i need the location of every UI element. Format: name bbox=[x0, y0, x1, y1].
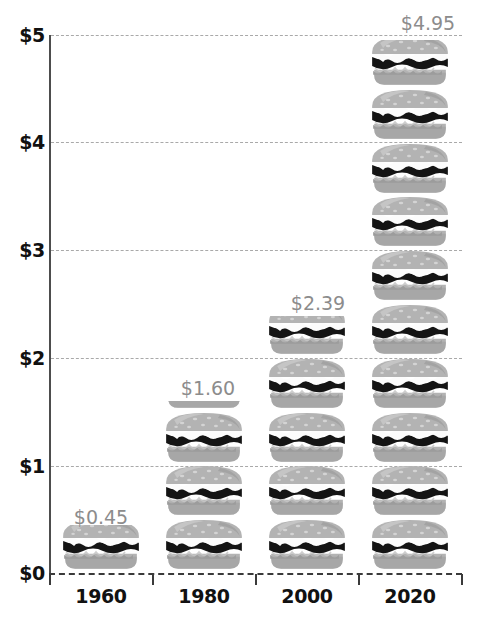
pictogram-stack-2000 bbox=[265, 316, 349, 573]
x-tick-1 bbox=[152, 574, 154, 585]
burger-icon bbox=[265, 465, 349, 519]
value-label-1960: $0.45 bbox=[74, 506, 128, 528]
burger-icon bbox=[162, 465, 246, 519]
y-tick-label-2: $2 bbox=[19, 347, 45, 369]
x-tick-label-2020: 2020 bbox=[384, 585, 435, 607]
value-label-2020: $4.95 bbox=[401, 12, 455, 34]
burger-price-pictogram-chart: $5 $4 $3 $2 $1 $0 1960 1980 2000 2020 $0… bbox=[0, 0, 494, 627]
burger-icon bbox=[368, 519, 452, 573]
x-tick-label-1960: 1960 bbox=[75, 585, 126, 607]
pictogram-stack-1980 bbox=[162, 401, 246, 573]
burger-icon bbox=[265, 412, 349, 466]
y-tick-label-3: $3 bbox=[19, 239, 45, 261]
pictogram-stack-2020 bbox=[368, 40, 452, 573]
x-tick-4 bbox=[461, 574, 463, 585]
burger-icon bbox=[368, 89, 452, 143]
x-tick-2 bbox=[255, 574, 257, 585]
burger-icon bbox=[368, 250, 452, 304]
burger-icon bbox=[368, 304, 452, 358]
y-tick-label-5: $5 bbox=[19, 24, 45, 46]
burger-icon-partial bbox=[162, 401, 246, 412]
burger-icon bbox=[265, 358, 349, 412]
burger-icon-partial bbox=[265, 316, 349, 358]
burger-icon-partial bbox=[59, 525, 143, 573]
pictogram-stack-1960 bbox=[59, 525, 143, 573]
y-tick-label-0: $0 bbox=[19, 562, 45, 584]
x-tick-label-1980: 1980 bbox=[178, 585, 229, 607]
x-tick-3 bbox=[358, 574, 360, 585]
burger-icon bbox=[162, 412, 246, 466]
y-tick-label-1: $1 bbox=[19, 455, 45, 477]
y-axis-line bbox=[49, 35, 51, 574]
x-tick-label-2000: 2000 bbox=[281, 585, 332, 607]
burger-icon-partial bbox=[368, 40, 452, 88]
burger-icon bbox=[368, 196, 452, 250]
burger-icon bbox=[368, 465, 452, 519]
burger-icon bbox=[368, 412, 452, 466]
value-label-2000: $2.39 bbox=[291, 292, 345, 314]
value-label-1980: $1.60 bbox=[181, 377, 235, 399]
burger-icon bbox=[265, 519, 349, 573]
burger-icon bbox=[162, 519, 246, 573]
burger-icon bbox=[368, 143, 452, 197]
x-tick-0 bbox=[49, 574, 51, 585]
gridline-5 bbox=[51, 35, 462, 36]
burger-icon bbox=[368, 358, 452, 412]
y-tick-label-4: $4 bbox=[19, 131, 45, 153]
